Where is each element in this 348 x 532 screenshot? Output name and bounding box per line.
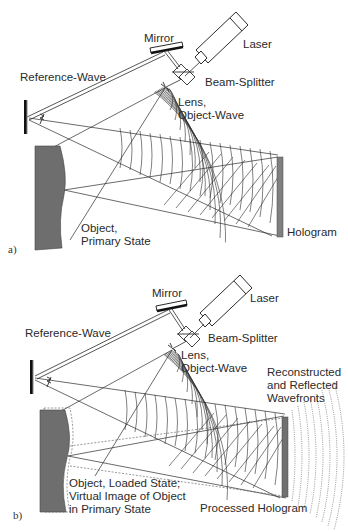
reference-wave-label: Reference-Wave — [25, 327, 111, 340]
beam-splitter-icon — [177, 326, 200, 347]
beam-splitter-label: Beam-Splitter — [205, 76, 275, 89]
laser-icon — [199, 275, 252, 327]
object-shape — [35, 146, 65, 250]
mirror-icon — [156, 300, 187, 311]
lens-object-wave-label: Lens, Object-Wave — [178, 96, 244, 122]
laser-label: Laser — [243, 38, 272, 51]
mirror-label: Mirror — [144, 32, 174, 45]
reconstructed-wavefronts-label: Reconstructed and Reflected Wavefronts — [267, 366, 341, 405]
panel-a: Mirror Laser Reference-Wave Beam-Splitte… — [0, 0, 348, 266]
processed-hologram-label: Processed Hologram — [200, 502, 307, 515]
laser-label: Laser — [250, 292, 279, 305]
laser-icon — [195, 12, 248, 64]
hologram-label: Hologram — [287, 226, 337, 239]
reference-lens-icon — [47, 377, 51, 387]
beam-splitter-label: Beam-Splitter — [208, 332, 278, 345]
object-shape — [40, 410, 70, 512]
object-primary-state-label: Object, Primary State — [81, 222, 151, 248]
mirror-label: Mirror — [152, 287, 182, 300]
hologram-plate — [282, 417, 288, 497]
reference-lens-icon — [40, 114, 44, 124]
hologram-plate — [277, 157, 283, 237]
object-loaded-state-label: Object, Loaded State; Virtual Image of O… — [69, 477, 186, 516]
reference-wave-label: Reference-Wave — [20, 71, 106, 84]
panel-b-label: b) — [13, 509, 22, 521]
panel-a-label: a) — [8, 243, 17, 255]
lens-object-wave-label: Lens, Object-Wave — [181, 349, 247, 375]
panel-b: Mirror Laser Reference-Wave Beam-Splitte… — [0, 266, 348, 532]
